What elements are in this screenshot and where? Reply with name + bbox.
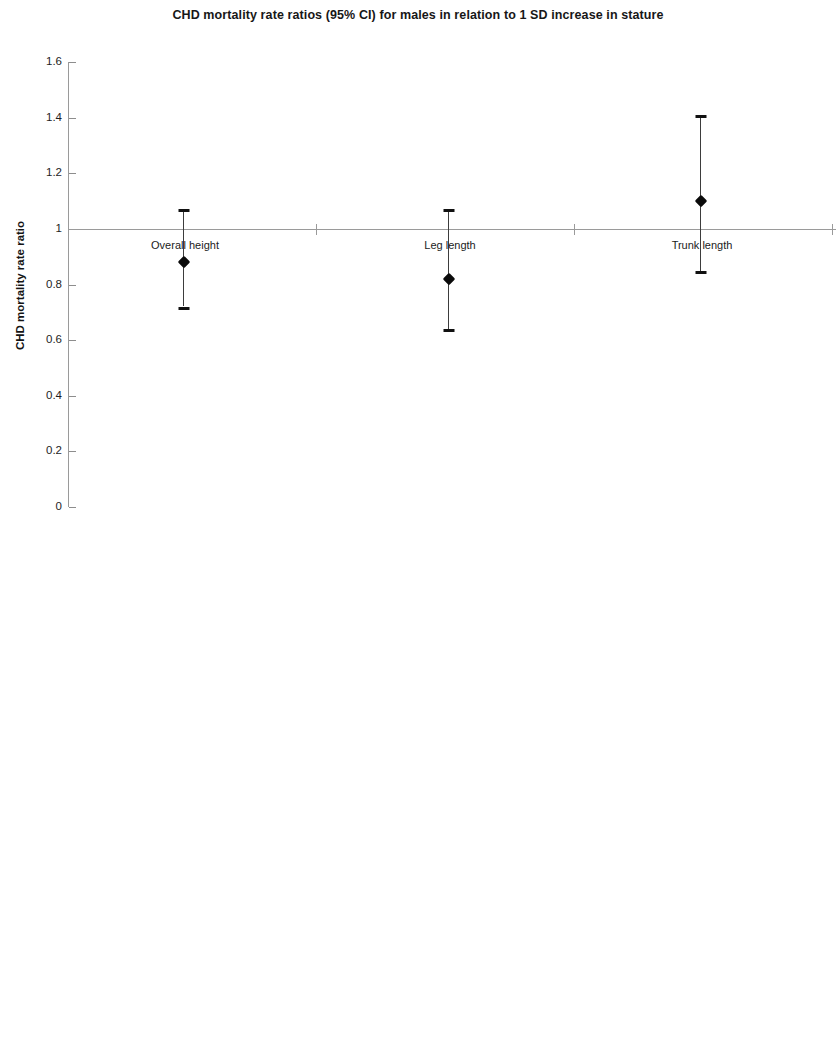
error-bar-cap-males-1-lower xyxy=(443,329,454,332)
y-axis-tick-label-males-4: 0.8 xyxy=(22,278,62,290)
error-bar-cap-males-2-upper xyxy=(695,115,706,118)
error-bar-cap-males-1-upper xyxy=(443,209,454,212)
y-axis-tick-label-males-3: 0.6 xyxy=(22,333,62,345)
error-bar-cap-males-0-lower xyxy=(178,307,189,310)
y-axis-tick-label-males-6: 1.2 xyxy=(22,166,62,178)
y-axis-tick-males-1 xyxy=(69,451,76,452)
x-axis-tick-males-5 xyxy=(832,224,833,235)
y-axis-tick-label-males-8: 1.6 xyxy=(22,55,62,67)
y-axis-title-males: CHD mortality rate ratio xyxy=(14,220,26,349)
x-axis-tick-males-1 xyxy=(316,224,317,235)
data-point-marker-males-2 xyxy=(694,195,707,208)
y-axis-tick-males-0 xyxy=(69,507,76,508)
data-point-marker-males-0 xyxy=(177,256,190,269)
chart-panel-females: CHD mortality rate ratios (95% CI) for f… xyxy=(0,520,836,1041)
data-point-marker-males-1 xyxy=(442,273,455,286)
category-label-males-0: Overall height xyxy=(151,239,219,251)
y-axis-tick-label-males-1: 0.2 xyxy=(22,444,62,456)
y-axis-tick-label-males-0: 0 xyxy=(22,500,62,512)
plot-area-males: 00.20.40.60.811.21.41.6CHD mortality rat… xyxy=(0,50,836,520)
y-axis-tick-males-6 xyxy=(69,173,76,174)
y-axis-tick-males-2 xyxy=(69,396,76,397)
y-axis-tick-label-males-7: 1.4 xyxy=(22,111,62,123)
error-bar-cap-males-2-lower xyxy=(695,271,706,274)
chart-panel-males: CHD mortality rate ratios (95% CI) for m… xyxy=(0,0,836,520)
y-axis-tick-males-4 xyxy=(69,285,76,286)
y-axis-tick-males-8 xyxy=(69,62,76,63)
error-bar-line-males-1 xyxy=(448,209,449,329)
error-bar-cap-males-0-upper xyxy=(178,209,189,212)
chart-title-males: CHD mortality rate ratios (95% CI) for m… xyxy=(0,8,836,22)
y-axis-tick-males-7 xyxy=(69,118,76,119)
figure-page: CHD mortality rate ratios (95% CI) for m… xyxy=(0,0,836,1041)
y-axis-tick-label-males-2: 0.4 xyxy=(22,389,62,401)
y-axis-tick-label-males-5: 1 xyxy=(22,222,62,234)
category-label-males-2: Trunk length xyxy=(672,239,733,251)
x-axis-tick-males-3 xyxy=(574,224,575,235)
y-axis-tick-males-3 xyxy=(69,340,76,341)
category-label-males-1: Leg length xyxy=(424,239,475,251)
